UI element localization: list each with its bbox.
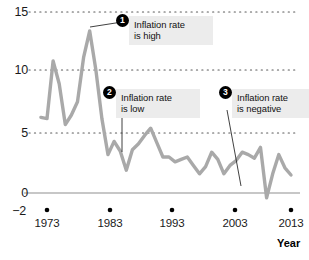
y-tick-label-15: 15 <box>2 5 28 19</box>
annotation-2-text: Inflation rate is low <box>116 89 200 118</box>
annotation-1-text: Inflation rate is high <box>129 16 213 45</box>
annotation-2-badge[interactable]: 2 <box>103 86 116 99</box>
x-axis-title: Year <box>277 237 300 249</box>
annotation-3-text: Inflation rate is negative <box>232 89 309 118</box>
x-tick-label-1973: 1973 <box>27 217 67 229</box>
x-tick-dot-1973 <box>45 208 50 213</box>
annotation-3-badge[interactable]: 3 <box>219 86 232 99</box>
y-tick-label-minus-2: −2 <box>0 204 26 218</box>
x-tick-dot-1983 <box>108 208 113 213</box>
leader-line-3 <box>227 110 241 186</box>
x-tick-marks <box>45 208 294 213</box>
annotation-1-badge[interactable]: 1 <box>116 14 129 27</box>
y-tick-label-0: 0 <box>2 186 28 200</box>
y-tick-label-10: 10 <box>2 63 28 77</box>
x-tick-label-2013: 2013 <box>271 217 309 229</box>
x-tick-dot-1993 <box>170 208 175 213</box>
x-tick-label-1983: 1983 <box>90 217 130 229</box>
x-tick-dot-2003 <box>233 208 238 213</box>
inflation-rate-line-chart: 15 10 5 0 −2 1973 1983 1993 2003 2013 Ye… <box>0 0 309 260</box>
x-tick-label-2003: 2003 <box>215 217 255 229</box>
y-tick-label-5: 5 <box>2 126 28 140</box>
x-tick-dot-2013 <box>289 208 294 213</box>
x-tick-label-1993: 1993 <box>152 217 192 229</box>
